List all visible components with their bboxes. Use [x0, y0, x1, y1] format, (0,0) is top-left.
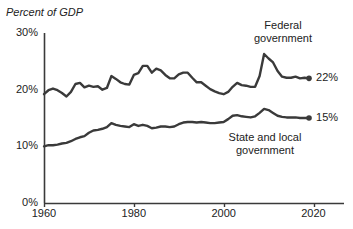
x-axis-tick-1960: 1960: [22, 207, 66, 219]
series-label-state-local-line1: State and local: [205, 131, 325, 144]
x-axis-tick-1980: 1980: [112, 207, 156, 219]
series-label-state-local: State and localgovernment: [205, 131, 325, 157]
endpoint-marker-federal: [306, 76, 312, 82]
chart-endpoint-markers: [306, 76, 312, 121]
series-label-state-local-line2: government: [205, 144, 325, 157]
series-label-federal: Federalgovernment: [233, 19, 333, 45]
endpoint-label-state-local: 15%: [316, 111, 338, 123]
endpoint-label-federal: 22%: [316, 71, 338, 83]
endpoint-marker-state-local: [306, 115, 312, 121]
series-line-federal: [44, 54, 309, 97]
x-axis-tick-2000: 2000: [202, 207, 246, 219]
y-axis-tick-30: 30%: [4, 26, 38, 38]
series-label-federal-line2: government: [233, 32, 333, 45]
chart-container: Percent of GDP 30% 20% 10% 0% 1960 1980 …: [0, 0, 353, 229]
y-axis-tick-20: 20%: [4, 83, 38, 95]
y-axis-tick-10: 10%: [4, 139, 38, 151]
series-label-federal-line1: Federal: [233, 19, 333, 32]
x-axis-tick-2020: 2020: [292, 207, 336, 219]
